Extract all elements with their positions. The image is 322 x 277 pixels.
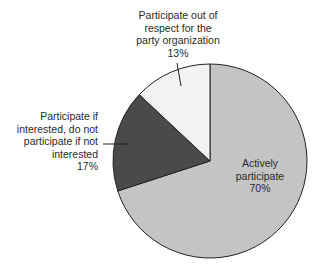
label-line: Actively	[225, 157, 295, 170]
label-line: party organization	[118, 34, 238, 47]
label-percent: 13%	[118, 47, 238, 60]
label-percent: 70%	[225, 182, 295, 195]
label-actively-participate: Actively participate 70%	[225, 157, 295, 195]
label-line: participate if not	[10, 135, 98, 148]
label-participate-out-of-respect: Participate out of respect for the party…	[118, 9, 238, 59]
label-line: interested	[10, 148, 98, 161]
label-participate-if-interested: Participate if interested, do not partic…	[10, 110, 98, 173]
label-line: interested, do not	[10, 123, 98, 136]
label-line: Participate if	[10, 110, 98, 123]
label-line: Participate out of	[118, 9, 238, 22]
label-line: participate	[225, 170, 295, 183]
label-line: respect for the	[118, 22, 238, 35]
label-percent: 17%	[10, 160, 98, 173]
